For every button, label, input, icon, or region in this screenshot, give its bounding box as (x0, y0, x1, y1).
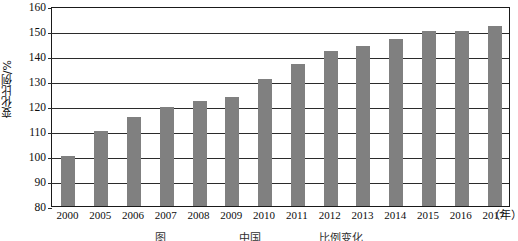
x-axis-tick-label: 2005 (89, 210, 111, 221)
y-axis-tick-label: 90 (35, 177, 47, 189)
figure-caption: 图 中国 比例变化 (0, 232, 518, 241)
y-tick-mark (48, 158, 52, 159)
bar (455, 31, 469, 206)
bar (324, 51, 338, 206)
bar (488, 26, 502, 206)
y-axis-tick-label: 110 (29, 127, 46, 139)
x-axis-tick-label: 2014 (384, 210, 406, 221)
x-axis-tick-label: 2012 (319, 210, 341, 221)
x-axis-tick-label: 2015 (417, 210, 439, 221)
y-tick-mark (48, 33, 52, 34)
gridline (52, 158, 509, 159)
y-tick-mark (48, 183, 52, 184)
bar (225, 97, 239, 206)
gridline (52, 133, 509, 134)
bar (94, 131, 108, 206)
y-tick-mark (48, 8, 52, 9)
bar (291, 64, 305, 207)
x-axis-tick-label: 2010 (253, 210, 275, 221)
x-axis-tick-label: 2011 (286, 210, 308, 221)
y-tick-mark (48, 108, 52, 109)
y-axis-tick-label: 150 (29, 27, 46, 39)
x-axis-tick-label: 2007 (155, 210, 177, 221)
y-tick-mark (48, 58, 52, 59)
y-tick-mark (48, 83, 52, 84)
bar (61, 156, 75, 206)
x-axis-tick-label: 2013 (351, 210, 373, 221)
bar (258, 79, 272, 207)
gridline (52, 83, 509, 84)
plot-area: 8090100110120130140150160 (51, 7, 510, 207)
bar (356, 46, 370, 206)
y-axis-tick-label: 160 (29, 2, 46, 14)
y-axis-tick-label: 130 (29, 77, 46, 89)
bar (389, 39, 403, 207)
x-axis-tick-label: 2000 (56, 210, 78, 221)
bar (422, 31, 436, 206)
bar (160, 107, 174, 206)
x-axis-unit-label: （年） (489, 210, 518, 221)
chart-figure: 变化比例/% 8090100110120130140150160 2000200… (0, 0, 518, 241)
x-axis-tick-label: 2008 (188, 210, 210, 221)
y-tick-mark (48, 208, 52, 209)
bar (193, 101, 207, 206)
gridline (52, 33, 509, 34)
gridline (52, 58, 509, 59)
bar (127, 117, 141, 206)
y-axis-tick-label: 140 (29, 52, 46, 64)
gridline (52, 108, 509, 109)
y-axis-tick-label: 100 (29, 152, 46, 164)
x-axis-tick-label: 2016 (450, 210, 472, 221)
y-axis-title: 变化比例/% (2, 60, 16, 118)
x-axis-tick-label: 2006 (122, 210, 144, 221)
x-axis-tick-label: 2009 (220, 210, 242, 221)
y-axis-tick-label: 80 (35, 202, 47, 214)
y-tick-mark (48, 133, 52, 134)
y-axis-tick-label: 120 (29, 102, 46, 114)
gridline (52, 183, 509, 184)
